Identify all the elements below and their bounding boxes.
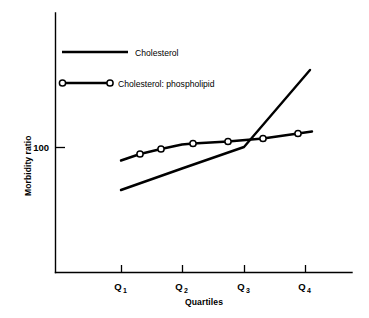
chart-figure: 100 Morbidity ratio Q 1 Q 2 Q 3 Q 4 Quar… — [0, 0, 369, 318]
x-axis-tick-label-q3: Q 3 — [237, 281, 250, 294]
x-axis-title: Quartiles — [185, 297, 223, 307]
legend-label-cholesterol-phospholipid: Cholesterol: phospholipid — [118, 79, 215, 89]
x-tick-sub-q3: 3 — [246, 287, 250, 294]
x-tick-base-q4: Q — [298, 281, 305, 292]
x-axis-tick-label-q4: Q 4 — [298, 281, 311, 294]
x-tick-sub-q2: 2 — [184, 287, 188, 294]
x-tick-base-q3: Q — [237, 281, 244, 292]
x-tick-base-q2: Q — [175, 281, 182, 292]
legend-marker-icon — [59, 80, 65, 86]
legend-entry-cholesterol: Cholesterol — [62, 48, 179, 58]
x-tick-base-q1: Q — [114, 281, 121, 292]
legend-entry-cholesterol-phospholipid: Cholesterol: phospholipid — [59, 79, 214, 89]
legend-label-cholesterol: Cholesterol — [135, 48, 179, 58]
data-point-marker — [260, 135, 266, 141]
y-axis-tick-label-100: 100 — [33, 142, 49, 153]
data-point-marker — [190, 140, 196, 146]
y-axis-title: Morbidity ratio — [23, 135, 33, 196]
data-point-marker — [295, 130, 301, 136]
chart-legend: Cholesterol Cholesterol: phospholipid — [59, 48, 214, 89]
x-axis-tick-label-q2: Q 2 — [175, 281, 188, 294]
x-tick-sub-q1: 1 — [123, 287, 127, 294]
data-point-marker — [158, 146, 164, 152]
line-chart: 100 Morbidity ratio Q 1 Q 2 Q 3 Q 4 Quar… — [0, 0, 369, 318]
x-axis-tick-label-q1: Q 1 — [114, 281, 127, 294]
data-point-marker — [137, 151, 143, 157]
x-tick-sub-q4: 4 — [307, 287, 311, 294]
data-point-marker — [225, 138, 231, 144]
legend-marker-icon — [107, 80, 113, 86]
